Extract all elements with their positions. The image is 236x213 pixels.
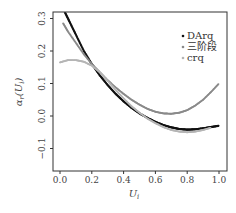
series-3 (59, 59, 211, 133)
svg-text:Ui: Ui (129, 188, 140, 201)
legend-item: crq (182, 52, 205, 63)
y-tick-label: −0.1 (37, 138, 47, 160)
x-tick-label: 0.6 (148, 175, 163, 185)
svg-text:αr(Ui): αr(Ui) (13, 78, 26, 107)
legend-label: DArq (187, 30, 214, 41)
x-tick-label: 0.2 (85, 175, 99, 185)
x-axis-label: Ui (129, 188, 140, 201)
legend: DArq三阶段crq (182, 30, 217, 63)
legend-marker-icon (182, 35, 185, 38)
x-tick-label: 0.4 (116, 175, 131, 185)
y-tick-label: 0.0 (37, 109, 47, 124)
x-tick-label: 1.0 (212, 175, 227, 185)
y-tick-label: 0.3 (37, 11, 47, 26)
legend-marker-icon (182, 57, 185, 60)
x-tick-label: 0.8 (180, 175, 195, 185)
series-1 (64, 11, 220, 131)
chart: −0.10.00.10.20.3 0.00.20.40.60.81.0 Ui α… (0, 0, 236, 213)
legend-marker-icon (182, 46, 185, 49)
y-tick-label: 0.2 (37, 44, 47, 58)
legend-label: 三阶段 (187, 40, 217, 52)
legend-item: 三阶段 (182, 40, 217, 52)
legend-item: DArq (182, 30, 214, 41)
x-tick-label: 0.0 (53, 175, 68, 185)
legend-label: crq (187, 52, 204, 63)
y-axis-label: αr(Ui) (13, 78, 26, 107)
y-tick-label: 0.1 (37, 76, 47, 90)
x-axis-ticks: 0.00.20.40.60.81.0 (53, 171, 227, 185)
y-axis-ticks: −0.10.00.10.20.3 (37, 11, 53, 159)
